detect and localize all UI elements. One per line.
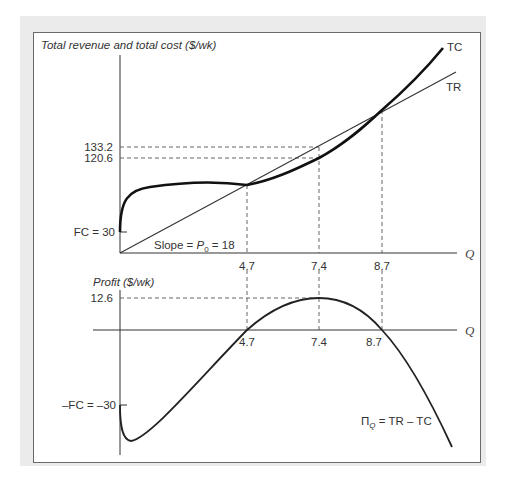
tc-curve — [120, 48, 443, 232]
top-y-axis-label: Total revenue and total cost ($/wk) — [41, 39, 217, 51]
neg-fc-label: –FC = –30 — [62, 399, 116, 411]
profit-y-axis-label: Profit ($/wk) — [93, 276, 155, 288]
tr-label: TR — [446, 81, 461, 93]
profit-x-axis-label: Q — [465, 323, 475, 338]
tr-line — [120, 72, 456, 253]
profit-guides — [120, 270, 382, 330]
top-chart: Total revenue and total cost ($/wk) Q TC… — [41, 39, 475, 272]
tick-120-6: 120.6 — [84, 152, 113, 164]
chart-canvas: Total revenue and total cost ($/wk) Q TC… — [0, 0, 506, 495]
profit-xtick-7-4: 7.4 — [311, 336, 328, 348]
top-x-axis-label: Q — [465, 246, 475, 261]
tc-label: TC — [447, 41, 462, 53]
profit-xtick-8-7: 8.7 — [366, 336, 382, 348]
profit-max-label: 12.6 — [91, 292, 113, 304]
profit-chart: Profit ($/wk) Q 12.6 –FC = –30 4.7 7.4 8… — [62, 270, 475, 455]
profit-xtick-4-7: 4.7 — [239, 336, 255, 348]
profit-equation-label: ΠQ = TR – TC — [361, 415, 432, 430]
fc-label: FC = 30 — [74, 226, 115, 238]
slope-label: Slope = P0 = 18 — [154, 239, 235, 254]
